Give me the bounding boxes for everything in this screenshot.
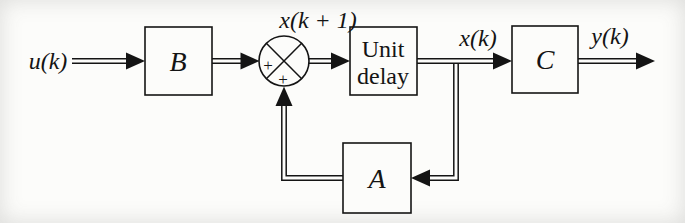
arrowhead-icon	[276, 87, 293, 107]
output-signal-label: y(k)	[589, 23, 628, 49]
arrowhead-icon	[636, 53, 655, 70]
double-line	[578, 59, 637, 63]
connector-b-to-sum	[212, 53, 260, 70]
double-line	[430, 63, 458, 180]
plus-sign-bottom: +	[278, 70, 288, 89]
plus-sign-left: +	[263, 56, 273, 75]
block-unit-delay: Unit delay	[350, 27, 417, 95]
next-state-signal-label: x(k + 1)	[278, 7, 356, 33]
unit-delay-label-line1: Unit	[362, 36, 405, 62]
block-b: B	[145, 27, 212, 95]
connector-a-to-sum	[276, 87, 344, 181]
arrowhead-icon	[411, 170, 430, 187]
summing-junction: + +	[259, 36, 309, 89]
arrowhead-icon	[331, 53, 350, 70]
block-a-label: A	[366, 163, 386, 194]
block-b-label: B	[169, 46, 186, 77]
arrowhead-icon	[241, 53, 260, 70]
connector-input-to-b	[72, 53, 145, 70]
double-line	[417, 59, 494, 63]
double-line	[212, 59, 241, 63]
double-line	[282, 106, 343, 180]
double-line	[72, 59, 126, 63]
arrowhead-icon	[126, 53, 145, 70]
unit-delay-label-line2: delay	[357, 63, 409, 89]
block-c: C	[512, 26, 578, 93]
arrowhead-icon	[493, 53, 512, 70]
block-diagram: B + + Unit delay C A u(k) x(k + 1) x(k) …	[0, 0, 685, 223]
block-a: A	[343, 143, 411, 213]
connector-c-to-output	[578, 53, 655, 70]
input-signal-label: u(k)	[29, 48, 68, 74]
double-line	[309, 59, 332, 63]
connector-delay-to-c	[417, 53, 512, 70]
connector-sum-to-delay	[309, 53, 350, 70]
state-signal-label: x(k)	[458, 25, 496, 51]
block-c-label: C	[536, 44, 555, 75]
connector-branch-to-a	[411, 63, 458, 187]
